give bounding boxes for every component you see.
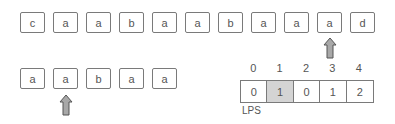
lps-index: 2 [293, 62, 319, 74]
lps-index: 4 [346, 62, 372, 74]
pattern-char-box: a [152, 68, 177, 89]
text-char-box: c [20, 12, 45, 33]
text-pointer-arrow-icon [323, 37, 337, 59]
pattern-pointer-arrow-icon [59, 94, 73, 116]
text-char-box: a [251, 12, 276, 33]
lps-index: 1 [266, 62, 292, 74]
text-char-box: a [152, 12, 177, 33]
pattern-char-box-current: a [53, 68, 78, 89]
pattern-char-box: a [119, 68, 144, 89]
text-char-box-current: a [317, 12, 342, 33]
lps-label: LPS [242, 105, 261, 116]
text-char-box: a [185, 12, 210, 33]
pattern-char-box: a [20, 68, 45, 89]
lps-cell: 0 [294, 81, 320, 102]
text-char-box: a [284, 12, 309, 33]
text-char-box: b [119, 12, 144, 33]
lps-index: 3 [319, 62, 345, 74]
text-char-box: b [218, 12, 243, 33]
text-char-box: d [350, 12, 375, 33]
lps-table: 0 1 0 1 2 [240, 80, 374, 103]
text-char-box: a [53, 12, 78, 33]
lps-index: 0 [240, 62, 266, 74]
lps-cell: 0 [241, 81, 267, 102]
pattern-char-box: b [86, 68, 111, 89]
lps-cell: 2 [347, 81, 373, 102]
lps-index-row: 0 1 2 3 4 [240, 62, 372, 74]
lps-cell: 1 [320, 81, 346, 102]
lps-cell-highlighted: 1 [267, 81, 293, 102]
text-char-box: a [86, 12, 111, 33]
